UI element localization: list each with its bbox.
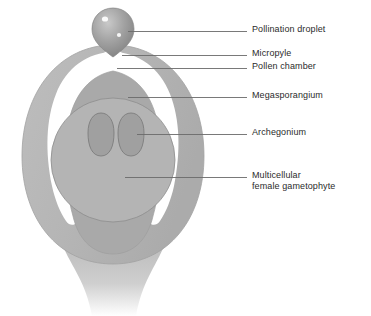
ovule-diagram (0, 0, 371, 316)
figure-canvas: Pollination droplet Micropyle Pollen cha… (0, 0, 371, 316)
label-micropyle: Micropyle (252, 48, 291, 59)
droplet-highlight-large (102, 16, 108, 21)
multicellular-female-gametophyte (51, 98, 175, 222)
droplet-highlight-small (117, 33, 121, 37)
label-pollen-chamber: Pollen chamber (252, 61, 316, 72)
archegonium-left (88, 113, 114, 156)
label-megasporangium: Megasporangium (252, 90, 323, 101)
archegonium-right (118, 113, 144, 156)
label-pollination-droplet: Pollination droplet (252, 24, 325, 35)
label-multicellular-female-gametophyte: Multicellular female gametophyte (252, 170, 335, 192)
label-archegonium: Archegonium (252, 127, 306, 138)
